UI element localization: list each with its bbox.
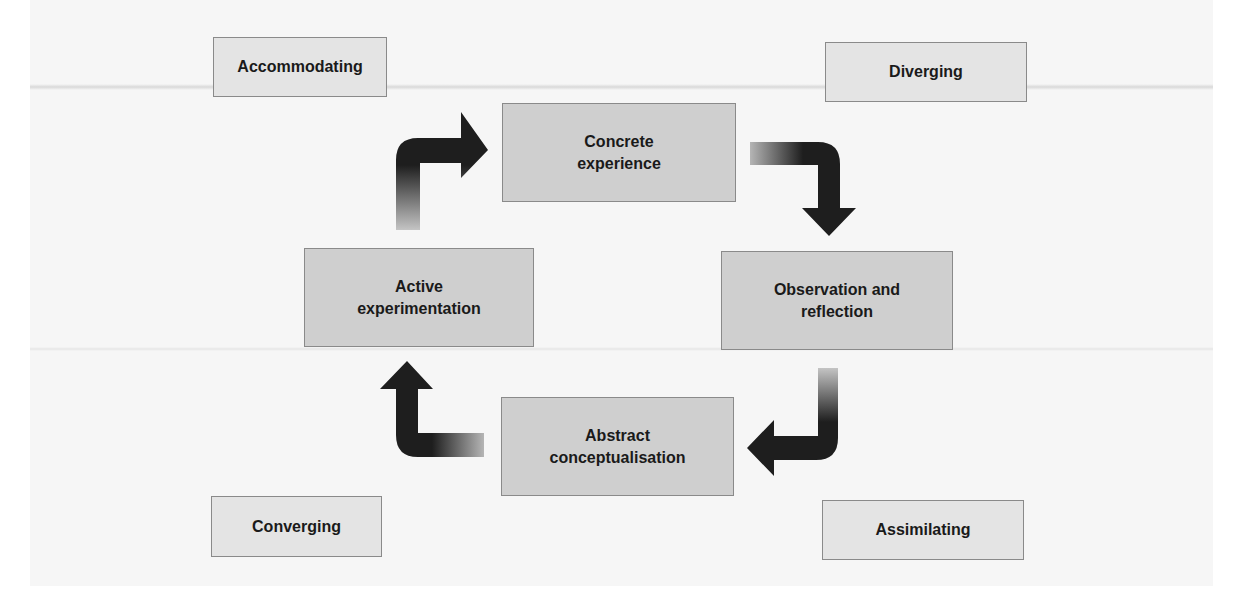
arrow-concrete-to-observation-icon (750, 142, 856, 236)
arrow-abstract-to-active-icon (380, 361, 484, 457)
arrow-active-to-concrete-icon (396, 112, 488, 230)
arrow-observation-to-abstract-icon (747, 368, 838, 476)
cycle-arrows (0, 0, 1235, 600)
